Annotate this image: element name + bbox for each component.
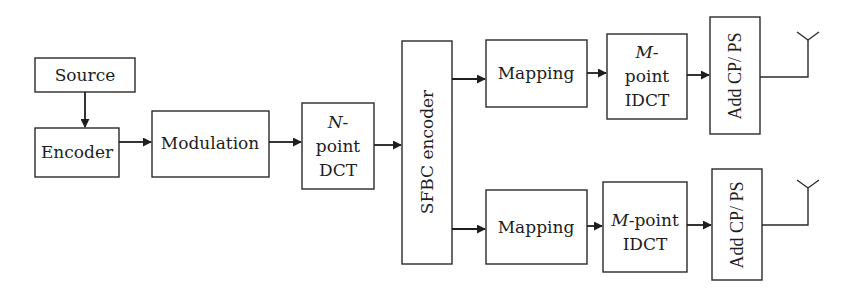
antenna-bottom-icon (762, 180, 819, 225)
idct-top-line1: M- (634, 42, 658, 62)
modulation-label: Modulation (161, 133, 260, 153)
ndct-line2: point (316, 136, 361, 156)
ndct-line3: DCT (319, 160, 358, 180)
idct-top-line2: point (625, 66, 670, 86)
block-diagram: Source Encoder Modulation N- point DCT S… (0, 0, 850, 290)
cp-bottom-label: Add CP/ PS (727, 181, 747, 268)
antenna-top-icon (760, 32, 819, 77)
source-label: Source (55, 65, 116, 85)
sfbc-label: SFBC encoder (417, 89, 437, 214)
idct-bottom-line2: IDCT (623, 234, 668, 254)
m-point-idct-top-block: M- point IDCT (607, 34, 687, 119)
add-cp-ps-top-block: Add CP/ PS (710, 17, 760, 134)
idct-top-line3: IDCT (625, 90, 670, 110)
mapping-top-block: Mapping (486, 40, 587, 107)
sfbc-encoder-block: SFBC encoder (402, 41, 452, 264)
encoder-block: Encoder (35, 128, 119, 177)
n-point-dct-block: N- point DCT (302, 103, 374, 189)
add-cp-ps-bottom-block: Add CP/ PS (712, 169, 762, 280)
idct-bottom-line1: M-point (610, 210, 679, 230)
ndct-line1: N- (327, 112, 349, 132)
m-point-idct-bottom-block: M-point IDCT (603, 182, 687, 272)
source-block: Source (35, 58, 135, 92)
cp-top-label: Add CP/ PS (725, 32, 745, 119)
mapping-bottom-label: Mapping (498, 217, 575, 237)
diagram-canvas: Source Encoder Modulation N- point DCT S… (0, 0, 850, 290)
mapping-bottom-block: Mapping (486, 190, 587, 264)
modulation-block: Modulation (152, 111, 269, 177)
encoder-label: Encoder (41, 142, 114, 162)
mapping-top-label: Mapping (498, 63, 575, 83)
